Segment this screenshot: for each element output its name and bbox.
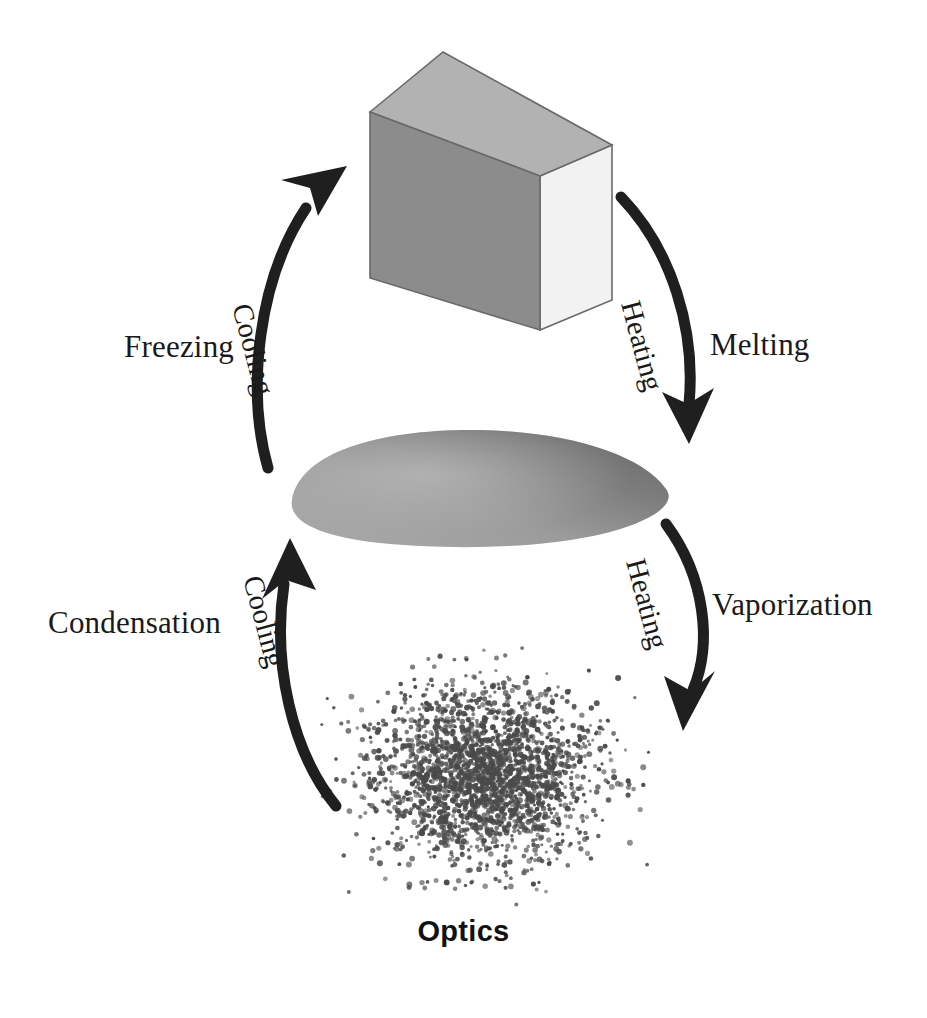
label-freezing: Freezing — [124, 329, 234, 365]
transition-arrows — [0, 0, 927, 1018]
label-vaporization: Vaporization — [712, 587, 873, 623]
label-condensation: Condensation — [48, 605, 221, 641]
arrow-condensation — [262, 538, 336, 806]
label-melting: Melting — [710, 327, 810, 363]
arrow-freezing-head — [281, 166, 347, 216]
arrow-freezing — [257, 166, 347, 468]
arrow-vaporization-head — [664, 671, 715, 731]
arrow-vaporization-path — [666, 524, 703, 690]
arrow-condensation-path — [281, 584, 336, 806]
diagram-caption: Optics — [0, 915, 927, 948]
phase-change-diagram: Freezing Cooling Heating Melting Condens… — [0, 0, 927, 1018]
arrow-vaporization — [664, 524, 715, 731]
